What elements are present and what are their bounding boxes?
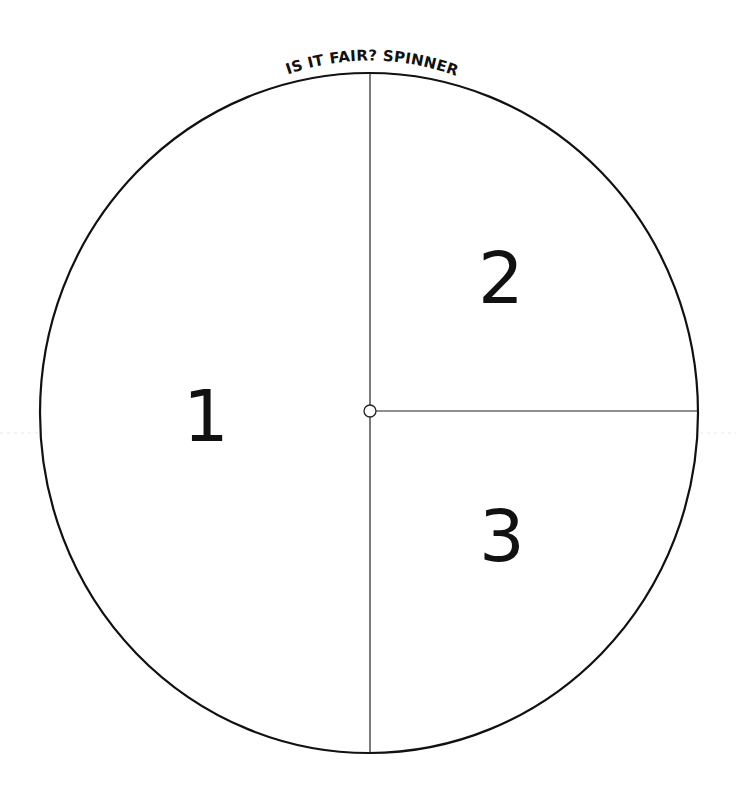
spinner-diagram: IS IT FAIR? SPINNER 1 2 3 [0, 0, 736, 796]
spinner-pivot [364, 405, 376, 417]
section-label-2: 2 [478, 236, 524, 320]
section-label-1: 1 [183, 374, 229, 458]
section-label-3: 3 [479, 494, 525, 578]
